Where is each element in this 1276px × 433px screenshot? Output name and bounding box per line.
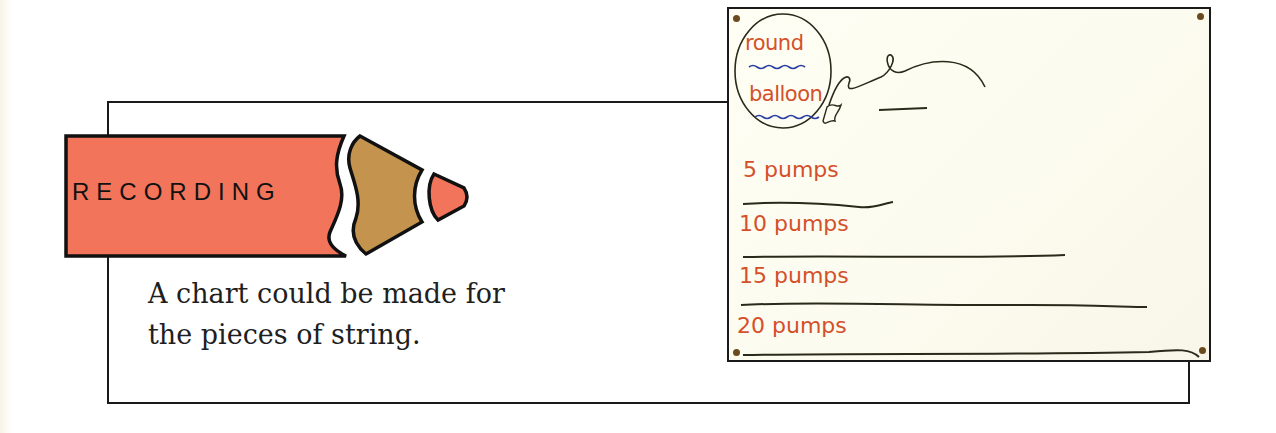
- string-10-pumps: [743, 255, 1065, 257]
- balloon-word-balloon: balloon: [749, 82, 822, 106]
- string-20-pumps: [743, 350, 1199, 357]
- chart-drawing: [729, 9, 1209, 360]
- balloon-word-round: round: [745, 31, 803, 55]
- row-label-5-pumps: 5 pumps: [743, 157, 839, 182]
- page-margin: [0, 0, 12, 433]
- string-5-pumps: [743, 202, 893, 207]
- caption-text: A chart could be made for the pieces of …: [148, 273, 608, 355]
- recording-label: RECORDING: [72, 178, 342, 206]
- caption-line-2: the pieces of string.: [148, 314, 608, 355]
- string-15-pumps: [741, 303, 1147, 307]
- row-label-20-pumps: 20 pumps: [737, 313, 847, 338]
- row-label-10-pumps: 10 pumps: [739, 211, 849, 236]
- caption-line-1: A chart could be made for: [148, 273, 608, 314]
- row-label-15-pumps: 15 pumps: [739, 263, 849, 288]
- string-length-chart: round balloon 5 pumps 10 pumps 15 pumps …: [727, 7, 1211, 362]
